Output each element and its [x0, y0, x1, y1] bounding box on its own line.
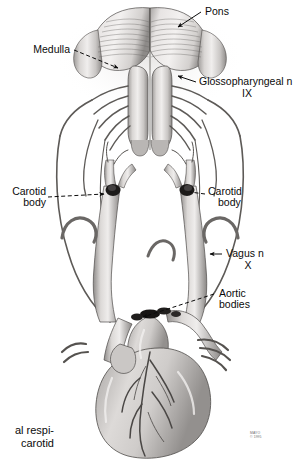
label-carotid-body-left-line2: body	[0, 197, 46, 209]
medulla-left-pyramid	[128, 66, 148, 148]
watermark-line2: © 1995	[250, 436, 262, 440]
label-glossopharyngeal-line1: Glossopharyngeal n	[199, 76, 292, 88]
caption-line1: al respi-	[0, 424, 54, 437]
label-carotid-body-right-line2: body	[218, 197, 241, 209]
label-pons: Pons	[205, 6, 229, 18]
carotid-body-left-highlight	[108, 185, 116, 191]
label-medulla: Medulla	[2, 44, 70, 56]
medulla-right-pyramid	[152, 66, 172, 148]
anatomy-illustration	[0, 0, 301, 462]
right-auricle	[110, 344, 135, 373]
label-glossopharyngeal-line2: IX	[199, 88, 295, 100]
label-vagus-line1: Vagus n	[226, 248, 264, 260]
label-aortic-bodies-line2: bodies	[219, 299, 250, 311]
carotid-body-right-highlight	[184, 185, 192, 191]
label-vagus-line2: X	[226, 260, 270, 272]
caption-line2: carotid	[0, 437, 54, 450]
